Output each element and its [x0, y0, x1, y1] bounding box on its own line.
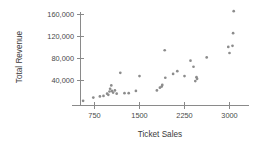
data-point	[196, 78, 199, 81]
y-tick-label-120000: 120,000	[47, 32, 74, 41]
y-tick-label-40000: 40,000	[51, 76, 74, 85]
data-point	[123, 92, 126, 95]
data-point	[135, 90, 138, 93]
data-point	[189, 59, 192, 62]
data-point	[183, 75, 186, 78]
data-point	[205, 56, 208, 59]
data-point	[161, 84, 164, 87]
data-point	[82, 100, 85, 103]
data-point	[115, 92, 118, 95]
data-point	[163, 49, 166, 52]
data-point	[109, 87, 112, 90]
data-point	[107, 93, 110, 96]
data-point	[176, 70, 179, 73]
x-tick-label-2250: 2250	[176, 111, 192, 120]
data-point	[172, 73, 175, 76]
data-points-layer	[82, 10, 235, 102]
data-point	[164, 76, 167, 79]
data-point	[110, 84, 113, 87]
x-axis-tick-labels: 750 1500 2250 3000	[88, 111, 237, 120]
x-axis-title: Ticket Sales	[138, 130, 182, 139]
chart-page: 160,000 120,000 80,000 40,000 Total Reve…	[0, 0, 257, 150]
data-point	[192, 65, 195, 68]
y-axis-title: Total Revenue	[15, 30, 24, 83]
data-point	[227, 46, 230, 49]
data-point	[232, 10, 235, 13]
data-point	[194, 80, 197, 83]
data-point	[232, 32, 235, 35]
data-point	[138, 75, 141, 78]
data-point	[92, 96, 95, 99]
data-point	[127, 92, 130, 95]
y-tick-label-160000: 160,000	[47, 10, 74, 19]
y-axis-group: 160,000 120,000 80,000 40,000 Total Reve…	[15, 10, 84, 105]
x-tick-label-3000: 3000	[221, 111, 237, 120]
data-point	[119, 71, 122, 74]
y-axis-tick-labels: 160,000 120,000 80,000 40,000	[47, 10, 74, 85]
data-point	[156, 89, 159, 92]
data-point	[102, 95, 105, 98]
scatter-plot: 160,000 120,000 80,000 40,000 Total Reve…	[0, 0, 257, 150]
data-point	[108, 90, 111, 93]
x-tick-label-750: 750	[88, 111, 100, 120]
data-point	[231, 45, 234, 48]
y-tick-label-80000: 80,000	[51, 54, 74, 63]
data-point	[114, 89, 117, 92]
x-tick-label-1500: 1500	[131, 111, 147, 120]
data-point	[99, 95, 102, 98]
data-point	[112, 91, 115, 94]
x-axis-group: 750 1500 2250 3000 Ticket Sales	[72, 102, 249, 139]
data-point	[228, 52, 231, 55]
